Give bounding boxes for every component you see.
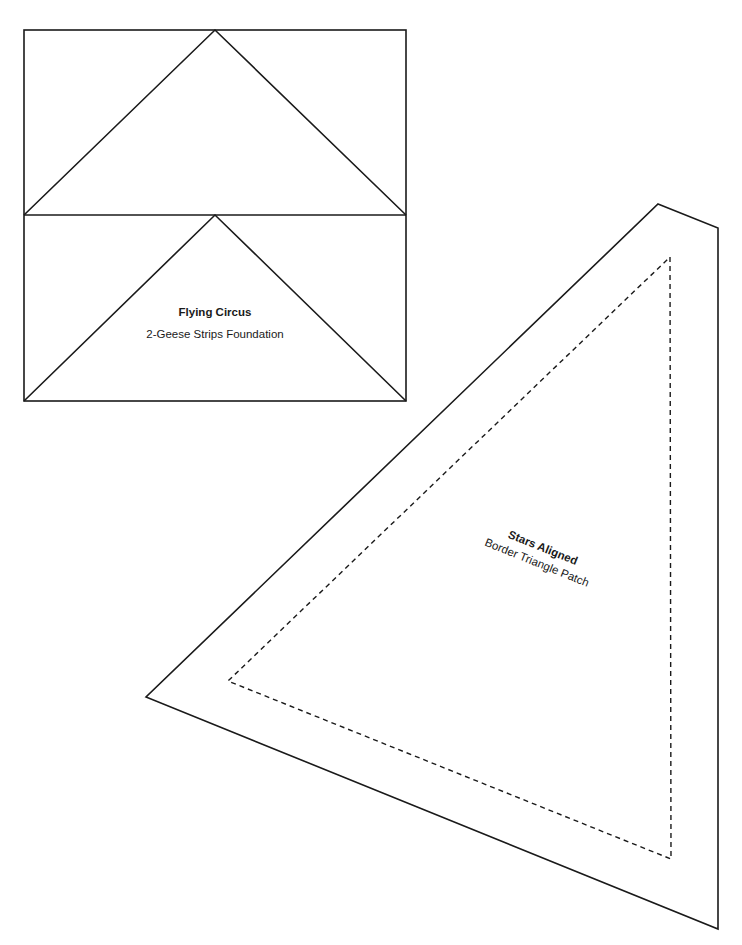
upper-goose-triangle <box>24 30 406 215</box>
flying-circus-title: Flying Circus <box>115 305 315 319</box>
flying-circus-subtitle: 2-Geese Strips Foundation <box>115 327 315 341</box>
pattern-sheet <box>0 0 742 945</box>
flying-circus-label: Flying Circus 2-Geese Strips Foundation <box>115 305 315 341</box>
flying-circus-foundation <box>24 30 406 401</box>
patch-seam-line <box>228 257 671 859</box>
